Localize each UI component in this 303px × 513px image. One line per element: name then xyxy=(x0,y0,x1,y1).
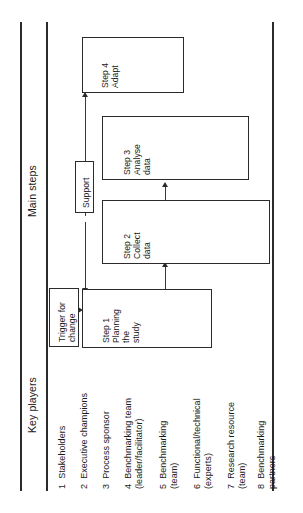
key-player-item-7-sub: (team) xyxy=(237,463,248,489)
box-support[interactable]: Support xyxy=(75,161,94,213)
box-step2-label: Step 2 Collect data xyxy=(122,232,152,259)
box-step1-line1: Step 1 xyxy=(101,318,111,343)
key-player-item-7: 7 Research resource xyxy=(226,402,237,489)
key-player-item-1: 1 Stakeholders xyxy=(57,426,68,489)
key-player-item-2: 2 Executive champions xyxy=(79,393,90,489)
box-step4[interactable]: Step 4 Adapt xyxy=(82,37,184,93)
key-player-2-text: 2 Executive champions xyxy=(79,393,89,489)
key-player-1-text: 1 Stakeholders xyxy=(57,426,67,489)
key-player-item-3: 3 Process sponsor xyxy=(101,411,112,489)
box-step3-line2: Analyse xyxy=(132,144,142,175)
box-step1-line3: the xyxy=(121,331,131,343)
box-step1[interactable]: Step 1 Planning the study xyxy=(82,289,212,348)
box-trigger-line2: change xyxy=(67,314,77,343)
box-step3-label: Step 3 Analyse data xyxy=(122,144,152,175)
box-step2-line1: Step 2 xyxy=(122,234,132,259)
box-step4-line2: Adapt xyxy=(110,65,120,88)
box-step1-label: Step 1 Planning the study xyxy=(101,309,142,343)
main-steps-header: Main steps xyxy=(26,165,38,217)
box-support-label: Support xyxy=(81,178,91,208)
key-player-4-text: 4 Benchmarking team xyxy=(123,398,133,489)
box-support-line1: Support xyxy=(81,178,91,208)
key-player-8-subtext: partners xyxy=(267,456,277,489)
key-player-item-4: 4 Benchmarking team xyxy=(123,398,134,489)
key-player-4-subtext: (leader/facilitator) xyxy=(134,418,144,489)
frame-rule-outer-top xyxy=(20,22,22,491)
frame-rule-header-separator xyxy=(46,22,48,491)
box-step2-line2: Collect xyxy=(132,232,142,259)
key-player-3-text: 3 Process sponsor xyxy=(101,411,111,489)
box-step3[interactable]: Step 3 Analyse data xyxy=(102,116,249,180)
key-player-5-subtext: (team) xyxy=(169,463,179,489)
box-step1-line2: Planning xyxy=(111,309,121,343)
box-step4-line1: Step 4 xyxy=(100,63,110,88)
box-step4-label: Step 4 Adapt xyxy=(100,63,120,88)
key-player-7-text: 7 Research resource xyxy=(226,402,236,489)
key-players-header: Key players xyxy=(26,377,38,433)
key-player-item-6-sub: (experts) xyxy=(203,453,214,489)
arrowhead-step3 xyxy=(162,182,168,187)
key-player-item-5-sub: (team) xyxy=(169,463,180,489)
key-player-item-8: 8 Benchmarking xyxy=(256,421,267,489)
box-trigger-label: Trigger for change xyxy=(57,302,77,342)
connector-support-to-step1 xyxy=(85,222,86,290)
frame-rule-outer-bottom xyxy=(272,22,274,491)
box-step3-line1: Step 3 xyxy=(122,150,132,175)
box-trigger-for-change[interactable]: Trigger for change xyxy=(49,288,79,347)
box-step2[interactable]: Step 2 Collect data xyxy=(102,200,270,264)
box-trigger-line1: Trigger for xyxy=(57,302,67,342)
box-step1-line4: study xyxy=(131,322,141,343)
key-player-7-subtext: (team) xyxy=(237,463,247,489)
key-player-item-6: 6 Functional/technical xyxy=(192,398,203,489)
key-player-item-4-sub: (leader/facilitator) xyxy=(134,418,145,489)
diagram-canvas: Main steps Key players 1 Stakeholders 2 … xyxy=(0,0,303,513)
key-player-item-5: 5 Benchmarking xyxy=(158,421,169,489)
key-player-6-subtext: (experts) xyxy=(203,453,213,489)
box-step3-line3: data xyxy=(142,158,152,175)
key-player-item-8-sub: partners xyxy=(267,456,278,489)
box-step2-line3: data xyxy=(142,242,152,259)
key-player-8-text: 8 Benchmarking xyxy=(256,421,266,489)
key-player-5-text: 5 Benchmarking xyxy=(158,421,168,489)
key-player-6-text: 6 Functional/technical xyxy=(192,398,202,489)
